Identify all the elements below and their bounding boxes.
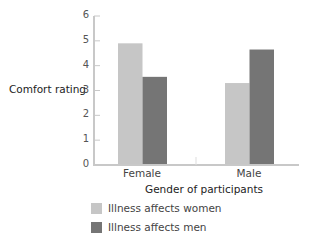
legend-item-women: Illness affects women [91, 202, 222, 214]
y-tick-5: 5 [79, 34, 89, 45]
y-tick-1: 1 [79, 133, 89, 144]
y-tick-4: 4 [79, 59, 89, 70]
y-axis-label: Comfort rating [9, 83, 86, 95]
bar-female-men [143, 77, 168, 164]
y-tick-2: 2 [79, 108, 89, 119]
x-category-male: Male [219, 167, 279, 179]
legend-swatch-men [91, 222, 102, 233]
legend-label-men: Illness affects men [108, 221, 207, 233]
legend-item-men: Illness affects men [91, 221, 207, 233]
y-tick-0: 0 [79, 158, 89, 169]
y-tick-3: 3 [79, 84, 89, 95]
x-category-female: Female [112, 167, 172, 179]
x-axis-label: Gender of participants [145, 183, 263, 195]
bar-male-women [225, 83, 250, 164]
legend-swatch-women [91, 203, 102, 214]
y-tick-6: 6 [79, 9, 89, 20]
legend-label-women: Illness affects women [108, 202, 222, 214]
bar-female-women [118, 43, 143, 164]
bar-male-men [250, 50, 275, 164]
